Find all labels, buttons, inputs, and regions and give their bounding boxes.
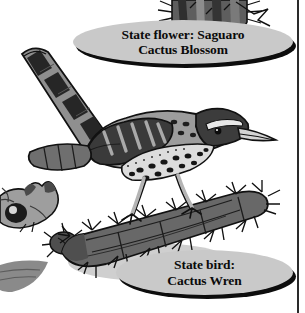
page-right-border	[297, 0, 299, 313]
callout-state-flower-line1: State flower: Saguaro	[116, 27, 251, 42]
illustration-canvas: State flower: Saguaro Cactus Blossom Sta…	[0, 0, 305, 313]
callout-state-bird-line1: State bird:	[161, 257, 247, 272]
callout-state-bird-line2: Cactus Wren	[161, 273, 247, 288]
callout-state-flower-line2: Cactus Blossom	[116, 42, 251, 57]
callout-state-flower: State flower: Saguaro Cactus Blossom	[73, 20, 293, 64]
callout-state-bird: State bird: Cactus Wren	[116, 250, 293, 295]
bird-eye-icon	[215, 128, 222, 135]
ringtail-animal-head-icon	[0, 182, 58, 232]
gray-tail-shape	[0, 261, 48, 292]
